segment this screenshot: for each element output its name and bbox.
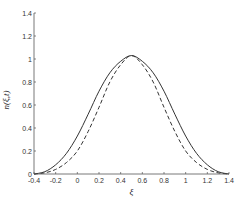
y-tick-label: 0.4 xyxy=(22,125,32,132)
y-tick-label: 1 xyxy=(28,56,32,63)
x-tick-label: -0.2 xyxy=(50,177,62,184)
x-tick-label: 0.2 xyxy=(94,177,104,184)
x-tick-label: -0.4 xyxy=(28,177,40,184)
x-tick-label: 1.4 xyxy=(224,177,234,184)
axes: -0.4-0.200.20.40.60.811.21.4 00.20.40.60… xyxy=(22,10,234,185)
x-tick-label: 0 xyxy=(75,177,79,184)
y-tick-label: 0.6 xyxy=(22,102,32,109)
plot-area xyxy=(34,56,229,174)
x-tick-label: 0.4 xyxy=(116,177,126,184)
y-tick-label: 0.8 xyxy=(22,79,32,86)
x-tick-label: 1 xyxy=(184,177,188,184)
x-tick-label: 0.8 xyxy=(159,177,169,184)
x-tick-label: 0.6 xyxy=(137,177,147,184)
y-axis-label: n(ξ,t) xyxy=(1,90,11,109)
x-tick-label: 1.2 xyxy=(202,177,212,184)
y-tick-label: 1.4 xyxy=(22,10,32,17)
line-chart: -0.4-0.200.20.40.60.811.21.4 00.20.40.60… xyxy=(0,0,247,200)
series-line-solid xyxy=(34,56,229,174)
y-tick-label: 1.2 xyxy=(22,33,32,40)
x-axis-label: ξ xyxy=(130,187,134,197)
y-tick-label: 0.2 xyxy=(22,148,32,155)
y-tick-label: 0 xyxy=(28,171,32,178)
series-line-dashed xyxy=(34,56,229,174)
